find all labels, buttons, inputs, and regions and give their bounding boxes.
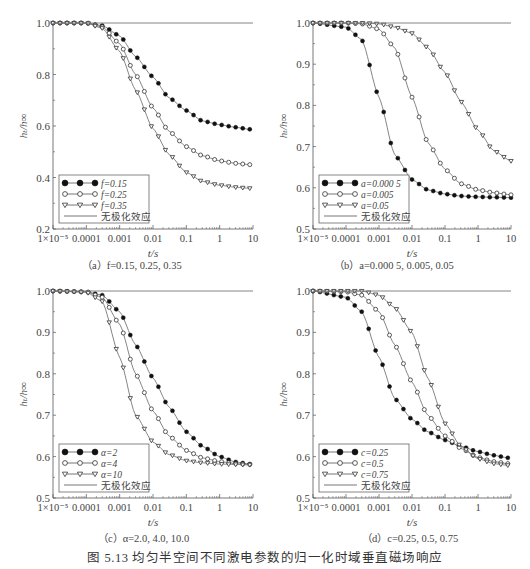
open-circle-marker-icon xyxy=(185,145,189,149)
filled-circle-marker-icon xyxy=(77,180,83,186)
triangle-down-marker-icon xyxy=(396,26,400,30)
filled-circle-marker-icon xyxy=(248,127,252,131)
triangle-down-marker-icon xyxy=(107,321,111,325)
filled-circle-marker-icon xyxy=(339,295,343,299)
series-1 xyxy=(311,289,510,460)
triangle-down-marker-icon xyxy=(212,183,216,187)
triangle-down-marker-icon xyxy=(415,345,419,349)
filled-circle-marker-icon xyxy=(353,303,357,307)
open-circle-marker-icon xyxy=(93,192,98,197)
triangle-down-marker-icon xyxy=(401,319,405,323)
open-circle-marker-icon xyxy=(502,192,506,196)
filled-circle-marker-icon xyxy=(388,384,392,388)
open-circle-marker-icon xyxy=(495,191,499,195)
triangle-down-marker-icon xyxy=(121,57,125,61)
open-circle-marker-icon xyxy=(199,153,203,157)
open-circle-marker-icon xyxy=(142,89,146,93)
filled-circle-marker-icon xyxy=(360,310,364,314)
x-tick-label: 1 xyxy=(217,502,222,513)
series-1 xyxy=(311,21,513,200)
open-circle-marker-icon xyxy=(128,63,132,67)
open-circle-marker-icon xyxy=(142,391,146,395)
triangle-down-marker-icon xyxy=(198,461,202,465)
triangle-down-marker-icon xyxy=(509,159,513,163)
open-circle-marker-icon xyxy=(460,182,464,186)
open-circle-marker-icon xyxy=(63,461,68,466)
filled-circle-marker-icon xyxy=(199,443,203,447)
filled-circle-marker-icon xyxy=(121,316,125,320)
filled-circle-marker-icon xyxy=(410,178,414,182)
filled-circle-marker-icon xyxy=(374,348,378,352)
triangle-down-marker-icon xyxy=(184,459,188,463)
filled-circle-marker-icon xyxy=(481,195,485,199)
x-axis-label: t/s xyxy=(148,516,158,528)
filled-circle-marker-icon xyxy=(192,436,196,440)
filled-circle-marker-icon xyxy=(408,416,412,420)
open-circle-marker-icon xyxy=(78,461,83,466)
filled-circle-marker-icon xyxy=(114,307,118,311)
y-tick-label: 0.6 xyxy=(36,120,50,132)
triangle-down-marker-icon xyxy=(450,432,454,436)
legend: α=2α=4α=10无极化效应 xyxy=(59,444,151,492)
triangle-down-marker-icon xyxy=(142,427,146,431)
open-circle-marker-icon xyxy=(452,176,456,180)
triangle-down-marker-icon xyxy=(429,384,433,388)
open-circle-marker-icon xyxy=(394,345,398,349)
triangle-down-marker-icon xyxy=(100,300,104,304)
x-tick-label: 0.001 xyxy=(108,233,132,244)
legend-label: c=0.5 xyxy=(361,459,384,469)
filled-circle-marker-icon xyxy=(431,189,435,193)
filled-circle-marker-icon xyxy=(352,180,358,186)
x-tick-label: 0.1 xyxy=(438,502,451,513)
legend-label: 无极化效应 xyxy=(101,211,151,222)
triangle-down-marker-icon xyxy=(128,397,132,401)
panel-d-caption: （d）c=0.25, 0.5, 0.75 xyxy=(362,530,458,545)
x-tick-label: 0.0001 xyxy=(332,502,361,513)
filled-circle-marker-icon xyxy=(488,195,492,199)
open-circle-marker-icon xyxy=(93,461,98,466)
y-tick-label: 0.7 xyxy=(296,141,310,153)
open-circle-marker-icon xyxy=(467,184,471,188)
filled-circle-marker-icon xyxy=(220,455,224,459)
filled-circle-marker-icon xyxy=(429,431,433,435)
x-tick-label: 0.001 xyxy=(367,233,391,244)
open-circle-marker-icon xyxy=(338,192,343,197)
filled-circle-marker-icon xyxy=(142,65,146,69)
triangle-down-marker-icon xyxy=(198,179,202,183)
triangle-down-marker-icon xyxy=(163,451,167,455)
triangle-down-marker-icon xyxy=(248,187,252,191)
filled-circle-marker-icon xyxy=(485,452,489,456)
open-circle-marker-icon xyxy=(170,436,174,440)
y-tick-label: 1.0 xyxy=(36,285,50,297)
x-tick-label: 10 xyxy=(506,502,517,513)
open-circle-marker-icon xyxy=(481,189,485,193)
filled-circle-marker-icon xyxy=(394,398,398,402)
filled-circle-marker-icon xyxy=(436,435,440,439)
legend-label: α=10 xyxy=(101,470,122,480)
filled-circle-marker-icon xyxy=(142,360,146,364)
y-tick-label: 0.6 xyxy=(36,451,50,463)
filled-circle-marker-icon xyxy=(401,407,405,411)
open-circle-marker-icon xyxy=(417,115,421,119)
open-circle-marker-icon xyxy=(156,417,160,421)
y-tick-label: 0.8 xyxy=(36,69,50,81)
open-circle-marker-icon xyxy=(135,374,139,378)
filled-circle-marker-icon xyxy=(163,400,167,404)
legend-label: 无极化效应 xyxy=(361,480,411,491)
triangle-down-marker-icon xyxy=(184,171,188,175)
open-circle-marker-icon xyxy=(206,155,210,159)
triangle-down-marker-icon xyxy=(219,184,223,188)
filled-circle-marker-icon xyxy=(438,191,442,195)
filled-circle-marker-icon xyxy=(128,333,132,337)
y-tick-label: 0.9 xyxy=(296,58,310,70)
open-circle-marker-icon xyxy=(474,187,478,191)
series-1 xyxy=(51,21,252,131)
open-circle-marker-icon xyxy=(367,299,371,303)
x-tick-label: 0.0001 xyxy=(72,233,101,244)
x-tick-label: 1 xyxy=(217,233,222,244)
filled-circle-marker-icon xyxy=(114,32,118,36)
open-circle-marker-icon xyxy=(149,104,153,108)
x-tick-label: 10 xyxy=(248,233,259,244)
filled-circle-marker-icon xyxy=(185,430,189,434)
triangle-down-marker-icon xyxy=(366,291,370,295)
